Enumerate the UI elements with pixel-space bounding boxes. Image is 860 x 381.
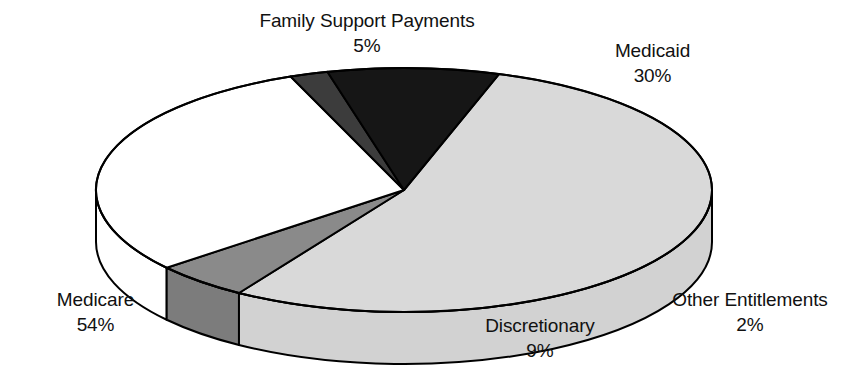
slice-label-name: Medicare (8, 287, 183, 312)
slice-label-name: Discretionary (440, 313, 640, 338)
slice-label-name: Other Entitlements (640, 287, 860, 312)
slice-label-value: 54% (8, 312, 183, 337)
slice-label-name: Medicaid (565, 38, 740, 63)
slice-label-name: Family Support Payments (247, 8, 487, 33)
slice-label-value: 2% (640, 312, 860, 337)
slice-label-discretionary: Discretionary 9% (440, 313, 640, 363)
slice-label-medicaid: Medicaid 30% (565, 38, 740, 88)
slice-label-value: 5% (247, 33, 487, 58)
slice-label-value: 30% (565, 63, 740, 88)
slice-label-value: 9% (440, 338, 640, 363)
pie-chart: Family Support Payments 5% Medicaid 30% … (0, 0, 860, 381)
slice-label-family-support-payments: Family Support Payments 5% (247, 8, 487, 58)
slice-label-medicare: Medicare 54% (8, 287, 183, 337)
slice-label-other-entitlements: Other Entitlements 2% (640, 287, 860, 337)
